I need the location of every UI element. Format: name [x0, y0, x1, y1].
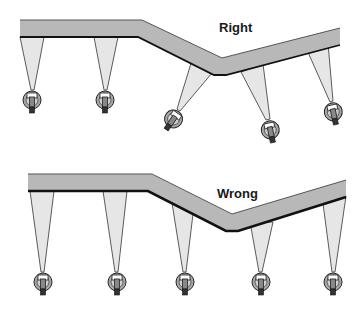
panel-label-right: Right [219, 20, 253, 35]
panel-label-wrong: Wrong [217, 186, 258, 201]
nozzle-icon [34, 273, 52, 295]
nozzle-icon [159, 106, 186, 134]
panel-wrong: Wrong [28, 174, 346, 295]
panel-right: Right [20, 20, 345, 144]
nozzle-icon [108, 273, 126, 295]
boom-right [20, 20, 340, 75]
nozzle-icon [23, 91, 41, 113]
nozzle-icon [324, 273, 342, 295]
nozzle-icon [323, 101, 345, 126]
nozzle-icon [252, 273, 270, 295]
nozzle-icon [96, 91, 114, 113]
spray-boom-diagram: Right Wrong [0, 0, 361, 319]
nozzle-icon [260, 119, 282, 144]
nozzle-icon [176, 273, 194, 295]
